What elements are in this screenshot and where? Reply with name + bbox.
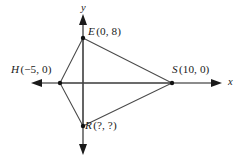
vertex-dot-e (81, 36, 85, 40)
point-label-h: H(−5, 0) (11, 64, 52, 75)
coordinate-plane-figure: E(0, 8) H(−5, 0) S(10, 0) R(?, ?) x y (0, 0, 247, 159)
point-label-e: E(0, 8) (88, 26, 121, 37)
y-axis-arrow-up-icon (79, 14, 87, 25)
point-name-r: R (85, 119, 93, 131)
y-axis-arrow-down-icon (79, 144, 87, 155)
y-axis-label: y (81, 3, 86, 14)
x-axis-arrow-left-icon (31, 79, 42, 87)
point-label-s: S(10, 0) (172, 64, 209, 75)
point-coords-h: (−5, 0) (20, 63, 51, 75)
point-coords-e: (0, 8) (96, 25, 121, 37)
point-name-h: H (11, 63, 20, 75)
point-name-e: E (88, 25, 96, 37)
point-coords-s: (10, 0) (179, 63, 210, 75)
point-name-s: S (172, 63, 179, 75)
kite-outline-hers (60, 38, 172, 126)
point-coords-r: (?, ?) (93, 119, 117, 131)
figure-canvas (0, 0, 247, 159)
vertex-dot-h (58, 81, 62, 85)
x-axis-label: x (228, 77, 233, 88)
x-axis-arrow-right-icon (211, 79, 222, 87)
vertex-dot-s (170, 81, 174, 85)
point-label-r: R(?, ?) (85, 120, 117, 131)
